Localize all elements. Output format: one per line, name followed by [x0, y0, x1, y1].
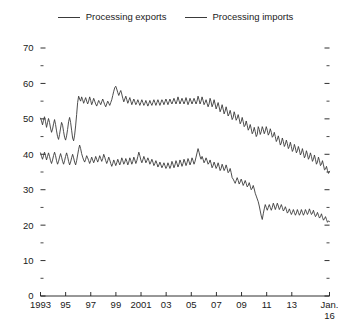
chart-root: Processing exports Processing imports 01…	[0, 0, 351, 332]
y-tick-label: 60	[23, 78, 34, 89]
x-tick-label: 07	[211, 299, 222, 310]
y-tick-label: 40	[23, 149, 34, 160]
x-tick-label: 05	[186, 299, 197, 310]
y-tick-label: 20	[23, 220, 34, 231]
y-tick-label: 50	[23, 113, 34, 124]
x-tick-label: 99	[111, 299, 122, 310]
y-axis-ticks-left	[41, 48, 46, 296]
series-line-processing-imports	[41, 145, 330, 222]
y-axis-tick-labels: 010203040506070	[23, 42, 34, 301]
x-tick-label: 03	[161, 299, 172, 310]
y-tick-label: 70	[23, 42, 34, 53]
x-axis-ticks	[41, 292, 330, 296]
x-tick-label: 2001	[130, 299, 151, 310]
x-tick-label: 1993	[30, 299, 51, 310]
x-tick-label: 11	[262, 299, 272, 310]
chart-svg: 010203040506070 199395979920010305070911…	[0, 0, 351, 332]
x-tick-label: Jan.	[321, 299, 339, 310]
x-tick-label: 13	[287, 299, 298, 310]
x-tick-sublabel: 16	[324, 310, 335, 321]
x-tick-label: 09	[236, 299, 247, 310]
y-tick-label: 30	[23, 184, 34, 195]
x-axis-tick-labels: 19939597992001030507091113Jan.16	[30, 299, 339, 321]
y-tick-label: 10	[23, 255, 34, 266]
x-tick-label: 95	[60, 299, 71, 310]
plot-area: 010203040506070 199395979920010305070911…	[0, 0, 351, 332]
x-tick-label: 97	[85, 299, 96, 310]
